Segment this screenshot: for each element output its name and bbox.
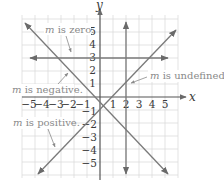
x-ticks-negative: −5 −4 −3 −2 −1: [21, 98, 90, 110]
x-axis-label: x: [189, 90, 196, 104]
svg-text:m is undefined.: m is undefined.: [150, 70, 224, 81]
svg-text:m is positive.: m is positive.: [13, 117, 80, 128]
svg-text:3: 3: [89, 51, 96, 63]
svg-text:m is negative.: m is negative.: [12, 84, 83, 95]
svg-text:m is zero.: m is zero.: [45, 24, 94, 35]
slope-diagram: x y −5 −4 −3 −2 −1 1 2 3 4 5 5 4 3 2 1 −…: [0, 0, 224, 187]
y-axis-label: y: [95, 0, 103, 12]
svg-text:−4: −4: [82, 144, 98, 156]
svg-text:2: 2: [89, 64, 96, 76]
svg-text:3: 3: [136, 98, 143, 110]
svg-text:4: 4: [149, 98, 156, 110]
svg-text:1: 1: [89, 77, 96, 89]
svg-text:−3: −3: [82, 131, 97, 143]
svg-text:5: 5: [162, 98, 169, 110]
annotation-undefined: m is undefined.: [131, 70, 224, 83]
svg-text:−5: −5: [82, 157, 97, 169]
svg-text:1: 1: [110, 98, 117, 110]
svg-text:4: 4: [89, 38, 96, 50]
x-ticks-positive: 1 2 3 4 5: [110, 98, 169, 110]
